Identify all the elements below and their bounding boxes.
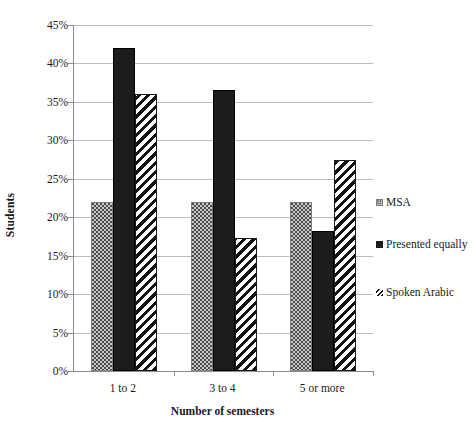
bar bbox=[290, 202, 312, 371]
legend-swatch-icon bbox=[376, 199, 383, 206]
bar bbox=[191, 202, 213, 371]
bar bbox=[91, 202, 113, 371]
y-tick-label: 35% bbox=[28, 96, 68, 108]
legend-label: Spoken Arabic bbox=[386, 286, 470, 299]
x-tick-mark bbox=[373, 371, 374, 376]
y-tick-label: 40% bbox=[28, 57, 68, 69]
bar bbox=[334, 160, 356, 371]
x-axis-title: Number of semesters bbox=[73, 405, 372, 417]
y-tick-label: 15% bbox=[28, 250, 68, 262]
y-tick-label: 30% bbox=[28, 134, 68, 146]
legend-entry: MSA bbox=[376, 196, 470, 209]
x-tick-mark bbox=[273, 371, 274, 376]
y-tick-label: 25% bbox=[28, 173, 68, 185]
bar bbox=[312, 231, 334, 371]
y-tick-label: 20% bbox=[28, 211, 68, 223]
y-tick-mark bbox=[68, 294, 73, 295]
y-tick-mark bbox=[68, 256, 73, 257]
legend-swatch-icon bbox=[376, 289, 383, 296]
y-tick-mark bbox=[68, 333, 73, 334]
x-tick-mark bbox=[174, 371, 175, 376]
y-tick-label: 5% bbox=[28, 327, 68, 339]
bar bbox=[135, 94, 157, 371]
y-tick-mark bbox=[68, 179, 73, 180]
legend-entry: Spoken Arabic bbox=[376, 286, 470, 299]
y-tick-label: 45% bbox=[28, 19, 68, 31]
gridline bbox=[74, 25, 373, 26]
y-tick-mark bbox=[68, 63, 73, 64]
legend-label: MSA bbox=[386, 196, 470, 209]
y-tick-mark bbox=[68, 217, 73, 218]
x-tick-label: 5 or more bbox=[277, 382, 367, 394]
bar bbox=[213, 90, 235, 371]
y-axis-title: Students bbox=[4, 160, 16, 270]
y-tick-mark bbox=[68, 25, 73, 26]
y-tick-mark bbox=[68, 102, 73, 103]
y-tick-mark bbox=[68, 140, 73, 141]
x-tick-label: 1 to 2 bbox=[78, 382, 168, 394]
plot-area bbox=[73, 25, 373, 372]
bar bbox=[235, 238, 257, 371]
y-tick-label: 10% bbox=[28, 288, 68, 300]
legend-swatch-icon bbox=[376, 241, 383, 248]
legend-label: Presented equally bbox=[386, 238, 470, 251]
bar-chart: Students 45%40%35%30%25%20%15%10%5%0% Nu… bbox=[0, 0, 475, 437]
y-axis-tick-labels: 45%40%35%30%25%20%15%10%5%0% bbox=[28, 0, 68, 437]
bar bbox=[113, 48, 135, 371]
x-tick-label: 3 to 4 bbox=[178, 382, 268, 394]
y-tick-mark bbox=[68, 371, 73, 372]
y-tick-label: 0% bbox=[28, 365, 68, 377]
legend-entry: Presented equally bbox=[376, 238, 470, 251]
